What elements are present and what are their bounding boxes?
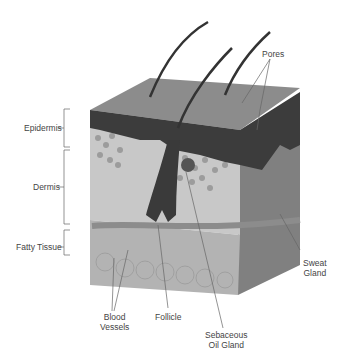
label-follicle: Follicle bbox=[155, 312, 181, 322]
label-blood-vessels: Blood Vessels bbox=[100, 312, 129, 332]
label-dermis: Dermis bbox=[33, 182, 60, 192]
label-fatty-tissue: Fatty Tissue bbox=[16, 242, 62, 252]
label-sweat-gland: Sweat Gland bbox=[303, 258, 327, 278]
sebaceous-gland-shape bbox=[181, 158, 195, 172]
label-epidermis: Epidermis bbox=[24, 123, 62, 133]
label-sebaceous-oil-gland: Sebaceous Oil Gland bbox=[205, 330, 248, 350]
label-pores: Pores bbox=[262, 49, 284, 59]
